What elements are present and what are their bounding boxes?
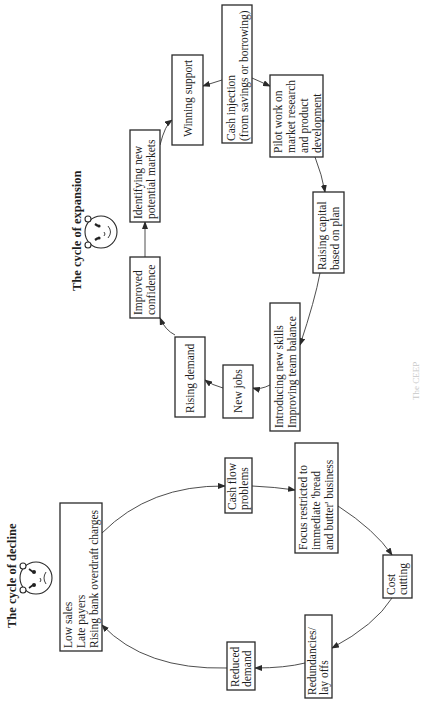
node-improved-confidence: Improvedconfidence: [130, 257, 160, 318]
node-introducing-skills: Introducing new skillsImproving team bal…: [270, 303, 300, 431]
svg-text:Raising capitalbased on plan: Raising capitalbased on plan: [316, 201, 342, 270]
expansion-title: The cycle of expansion: [70, 170, 84, 291]
decline-title: The cycle of decline: [5, 523, 19, 628]
svg-text:Introducing new skillsImprovin: Introducing new skillsImproving team bal…: [273, 316, 299, 428]
node-new-jobs: New jobs: [223, 365, 253, 418]
smiling-face-icon: [85, 216, 117, 248]
node-pilot-work: Pilot work onmarket researchand productd…: [270, 75, 324, 157]
node-reduced-demand: Reduceddemand: [227, 642, 255, 690]
svg-text:New jobs: New jobs: [232, 369, 245, 413]
svg-text:Reduceddemand: Reduceddemand: [229, 647, 253, 687]
svg-text:Winning support: Winning support: [182, 59, 195, 137]
node-low-sales: Low salesLate payersRising bank overdraf…: [60, 503, 102, 651]
expansion-cycle: The cycle of expansion Cash injection(fr…: [70, 5, 344, 431]
node-redundancies: Redundancies/lay offs: [305, 615, 332, 698]
svg-text:Rising demand: Rising demand: [184, 343, 197, 413]
svg-text:Focus restricted toimmediate ': Focus restricted toimmediate 'breadand b…: [297, 459, 335, 550]
frowning-face-icon: [20, 562, 52, 594]
node-cash-injection: Cash injection(from savings or borrowing…: [222, 5, 252, 143]
figure-caption: The CEEP: [411, 362, 421, 400]
node-cost-cutting: Costcutting: [383, 555, 412, 598]
node-winning-support: Winning support: [172, 55, 203, 145]
node-focus-restricted: Focus restricted toimmediate 'breadand b…: [295, 443, 338, 553]
decline-cycle: The cycle of decline Low salesLate payer…: [5, 443, 412, 698]
node-identifying-markets: Identifying newpotential markets: [130, 130, 160, 222]
cycles-diagram: The cycle of expansion Cash injection(fr…: [0, 0, 425, 703]
svg-text:Identifying newpotential marke: Identifying newpotential markets: [132, 139, 158, 219]
node-cash-flow: Cash flowproblems: [225, 458, 252, 513]
node-raising-capital: Raising capitalbased on plan: [313, 192, 344, 273]
svg-text:Cash flowproblems: Cash flowproblems: [226, 462, 251, 510]
svg-text:Improvedconfidence: Improvedconfidence: [132, 265, 157, 315]
node-rising-demand: Rising demand: [175, 337, 205, 417]
